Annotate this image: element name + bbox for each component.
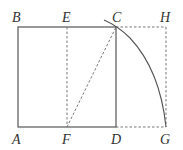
label-e: E	[61, 10, 71, 25]
label-d: D	[110, 132, 121, 147]
segment-fc	[67, 27, 116, 127]
label-b: B	[12, 10, 21, 25]
label-f: F	[61, 132, 71, 147]
golden-rectangle-diagram: B E C H A F D G	[0, 0, 183, 150]
label-a: A	[11, 132, 21, 147]
label-g: G	[160, 132, 170, 147]
arc-cg	[104, 20, 166, 127]
label-c: C	[112, 10, 122, 25]
label-h: H	[159, 10, 171, 25]
